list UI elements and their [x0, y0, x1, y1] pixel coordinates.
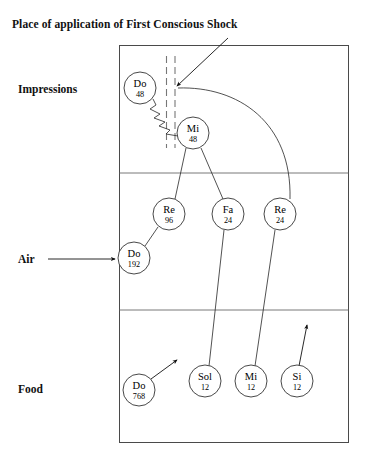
note-name: Do — [128, 248, 141, 259]
note-value: 768 — [133, 392, 145, 401]
note-air-re-24[interactable]: Re 24 — [264, 198, 296, 230]
do768-up-arrow — [151, 360, 177, 379]
note-impressions-mi-48[interactable]: Mi 48 — [177, 117, 209, 149]
note-name: Re — [163, 204, 175, 215]
si12-up-arrow — [299, 325, 307, 366]
note-value: 48 — [189, 135, 197, 144]
note-name: Mi — [245, 371, 257, 382]
line-re24-to-mi12 — [255, 230, 275, 366]
diagram-graphic: Do 48 Mi 48 Re 96 Fa 24 Re 24 Do 192 — [0, 0, 368, 465]
line-re96-to-do192 — [145, 227, 158, 246]
note-impressions-do-48[interactable]: Do 48 — [124, 72, 156, 104]
note-food-mi-12[interactable]: Mi 12 — [235, 365, 267, 397]
note-value: 96 — [165, 216, 173, 225]
note-value: 48 — [136, 90, 144, 99]
shock-zigzag-connector — [150, 99, 178, 136]
note-air-re-96[interactable]: Re 96 — [153, 198, 185, 230]
note-food-do-768[interactable]: Do 768 — [123, 374, 155, 406]
note-name: Do — [133, 380, 146, 391]
line-mi48-to-fa24 — [201, 148, 223, 199]
line-fa24-to-sol12 — [209, 230, 224, 366]
note-name: Re — [274, 204, 286, 215]
diagram-canvas: Place of application of First Conscious … — [0, 0, 368, 465]
note-value: 24 — [224, 216, 232, 225]
note-food-si-12[interactable]: Si 12 — [281, 365, 313, 397]
note-value: 12 — [201, 383, 209, 392]
note-air-fa-24[interactable]: Fa 24 — [212, 198, 244, 230]
note-name: Sol — [198, 371, 212, 382]
note-value: 24 — [276, 216, 284, 225]
note-name: Fa — [223, 204, 234, 215]
note-name: Do — [134, 78, 147, 89]
note-name: Mi — [187, 123, 199, 134]
line-mi48-to-re96 — [175, 148, 186, 199]
note-name: Si — [293, 371, 302, 382]
note-air-do-192[interactable]: Do 192 — [118, 242, 150, 274]
note-value: 12 — [247, 383, 255, 392]
note-value: 192 — [128, 260, 140, 269]
note-food-sol-12[interactable]: Sol 12 — [189, 365, 221, 397]
note-value: 12 — [293, 383, 301, 392]
